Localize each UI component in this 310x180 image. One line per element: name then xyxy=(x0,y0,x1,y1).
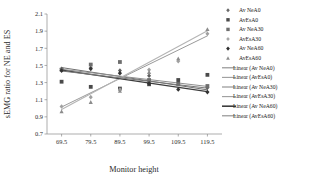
y-tick-label: 0.7 xyxy=(35,130,44,137)
data-point xyxy=(205,90,209,95)
x-tick-label: 99.5 xyxy=(143,138,154,145)
y-tick-label: 1.7 xyxy=(35,45,44,52)
y-axis-ticks: 0.70.91.11.31.51.71.92.1 xyxy=(35,10,47,137)
x-tick-label: 89.5 xyxy=(114,138,125,145)
trendline xyxy=(62,71,208,88)
x-tick-label: 119.5 xyxy=(200,138,214,145)
data-point xyxy=(118,60,122,64)
y-axis-title: sEMG ratio for NE and ES xyxy=(3,29,12,118)
data-point xyxy=(205,27,209,31)
trendline xyxy=(62,31,208,110)
data-point xyxy=(89,66,93,71)
y-tick-label: 0.9 xyxy=(35,113,43,120)
legend-entry-label: AvEsA30 xyxy=(239,36,261,42)
data-point xyxy=(89,95,93,100)
data-point xyxy=(206,84,210,88)
plot-frame xyxy=(47,14,222,134)
legend-entry-label: Av NeA60 xyxy=(239,45,264,51)
legend-marker-icon xyxy=(226,28,229,31)
y-tick-label: 2.1 xyxy=(35,10,43,17)
chart-canvas: 0.70.91.11.31.51.71.92.1 69.579.589.599.… xyxy=(0,0,310,180)
data-point xyxy=(118,71,122,76)
semg-scatter-chart: 0.70.91.11.31.51.71.92.1 69.579.589.599.… xyxy=(0,0,310,180)
legend-entry-label: Linear (AvEsA0) xyxy=(233,74,272,81)
legend-entry-label: AvEsA0 xyxy=(239,17,258,23)
legend-group: Av NeA0AvEsA0Av NeA30AvEsA30Av NeA60AvEs… xyxy=(222,7,278,120)
data-point xyxy=(59,110,63,114)
y-tick-label: 1.3 xyxy=(35,79,43,86)
data-point xyxy=(147,73,151,78)
x-axis-ticks: 69.579.589.599.5109.5119.5 xyxy=(56,134,215,145)
legend-marker-icon xyxy=(226,37,230,41)
x-axis-title: Monitor height xyxy=(109,165,159,174)
data-point xyxy=(176,56,180,60)
legend-marker-icon xyxy=(226,18,229,21)
x-tick-label: 69.5 xyxy=(56,138,67,145)
legend-entry-label: Av NeA30 xyxy=(239,26,264,32)
legend-entry-label: Linear (AvEsA60) xyxy=(233,113,275,120)
y-tick-label: 1.5 xyxy=(35,62,43,69)
chart-root: 0.70.91.11.31.51.71.92.1 69.579.589.599.… xyxy=(0,0,310,180)
data-point xyxy=(206,73,210,77)
legend-marker-icon xyxy=(226,56,230,59)
trendlines-group xyxy=(62,31,208,110)
x-tick-label: 79.5 xyxy=(85,138,96,145)
data-point xyxy=(176,78,180,82)
data-point xyxy=(205,31,209,36)
legend-entry-label: Av NeA0 xyxy=(239,7,261,13)
legend-entry-label: Linear (Av NeA0) xyxy=(233,65,275,72)
legend-entry-label: Linear (Av NeA60) xyxy=(233,103,278,110)
y-tick-label: 1.1 xyxy=(35,96,43,103)
x-tick-label: 109.5 xyxy=(171,138,185,145)
legend-marker-icon xyxy=(226,46,230,50)
y-tick-label: 1.9 xyxy=(35,27,43,34)
data-point xyxy=(60,80,64,84)
data-point xyxy=(89,100,93,104)
data-point xyxy=(60,104,64,109)
legend-marker-icon xyxy=(226,8,230,12)
data-point xyxy=(89,63,93,67)
data-point xyxy=(147,70,151,74)
data-point xyxy=(89,85,93,89)
legend-entry-label: Linear (AvEsA30) xyxy=(233,93,275,100)
data-point xyxy=(176,82,180,86)
legend-entry-label: Linear (Av NeA30) xyxy=(233,84,278,91)
legend-entry-label: AvEsA60 xyxy=(239,55,261,61)
